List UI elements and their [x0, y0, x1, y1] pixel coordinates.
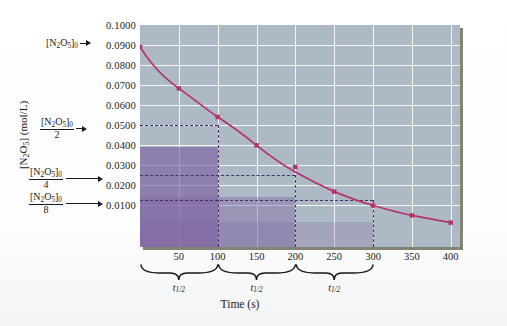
x-tick-label: 100	[198, 250, 238, 263]
data-point-200	[293, 165, 297, 169]
y-tick-label: 0.0400	[74, 140, 136, 151]
half-life-label: t1/2	[227, 282, 287, 294]
fraction-denominator: 2	[40, 130, 74, 141]
fraction-denominator: 8	[29, 205, 63, 216]
y-tick-label: 0.1000	[74, 20, 136, 31]
half-life-braces: t1/2 t1/2 t1/2	[140, 264, 460, 298]
arrow-right-icon	[66, 175, 104, 183]
annotation-eighth-concentration: [N2O5]0 8	[29, 192, 104, 216]
arrow-right-icon	[80, 39, 91, 47]
half-life-label: t1/2	[304, 282, 364, 294]
x-tick-label: 300	[353, 250, 393, 263]
data-point-250	[332, 189, 336, 193]
half-life-label: t1/2	[149, 282, 209, 294]
braces-svg	[140, 264, 460, 284]
annotation-half-concentration: [N2O5]0 2	[40, 117, 87, 141]
plot-area	[140, 25, 460, 247]
x-tick-label: 400	[431, 250, 471, 263]
y-title-sub-5: 5	[22, 142, 31, 146]
data-point-150	[254, 143, 258, 147]
fraction-numerator: [N2O5]0	[29, 167, 63, 180]
kinetics-figure: 0.1000 0.0900 0.0800 0.0700 0.0600 0.050…	[0, 0, 507, 326]
data-point-50	[177, 86, 181, 90]
x-tick-label: 350	[392, 250, 432, 263]
arrow-right-icon	[66, 200, 104, 208]
y-tick-label: 0.0700	[74, 80, 136, 91]
fraction-c0-over-4: [N2O5]0 4	[29, 167, 63, 191]
data-point-300	[371, 203, 375, 207]
y-title-sub-2: 2	[22, 153, 31, 157]
x-axis-title: Time (s)	[170, 298, 310, 310]
fraction-numerator: [N2O5]0	[40, 117, 74, 130]
x-tick-label: 200	[275, 250, 315, 263]
fraction-c0-over-2: [N2O5]0 2	[40, 117, 74, 141]
annotation-initial-concentration: [N2O5]0	[46, 37, 91, 50]
y-tick-label: 0.0600	[74, 100, 136, 111]
data-point-100	[216, 115, 220, 119]
x-tick-label: 250	[314, 250, 354, 263]
fraction-denominator: 4	[29, 180, 63, 191]
decay-curve	[140, 25, 460, 247]
data-point-0	[140, 45, 142, 49]
data-point-400	[449, 220, 453, 224]
y-tick-label: 0.0800	[74, 60, 136, 71]
annotation-text-c0: [N2O5]0	[46, 37, 78, 50]
annotation-quarter-concentration: [N2O5]0 4	[29, 167, 104, 191]
data-point-350	[410, 213, 414, 217]
x-tick-label: 50	[159, 250, 199, 263]
fraction-c0-over-8: [N2O5]0 8	[29, 192, 63, 216]
x-tick-label: 150	[237, 250, 277, 263]
fraction-numerator: [N2O5]0	[29, 192, 63, 205]
arrow-right-icon	[76, 125, 87, 133]
